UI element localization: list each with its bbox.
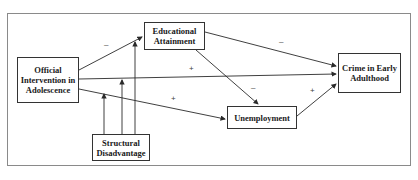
- node-structural-disadvantage: Structural Disadvantage: [92, 134, 150, 161]
- node-crime-early-adulthood: Crime in Early Adulthood: [338, 53, 401, 93]
- sign-oi-unemp: +: [171, 94, 176, 103]
- sign-oi-ea: –: [104, 40, 108, 49]
- node-official-intervention-label: Official Intervention in Adolescence: [18, 65, 78, 95]
- sign-unemp-crime: +: [310, 86, 315, 95]
- sign-oi-crime: +: [189, 64, 194, 73]
- node-structural-disadvantage-label: Structural Disadvantage: [93, 138, 149, 158]
- sign-ea-unemp: –: [251, 83, 255, 92]
- node-educational-attainment-label: Educational Attainment: [145, 26, 204, 46]
- node-unemployment: Unemployment: [227, 106, 297, 129]
- node-educational-attainment: Educational Attainment: [144, 22, 205, 50]
- node-unemployment-label: Unemployment: [234, 113, 290, 123]
- sign-ea-crime: –: [279, 37, 283, 46]
- node-crime-label: Crime in Early Adulthood: [339, 63, 400, 83]
- node-official-intervention: Official Intervention in Adolescence: [17, 57, 79, 103]
